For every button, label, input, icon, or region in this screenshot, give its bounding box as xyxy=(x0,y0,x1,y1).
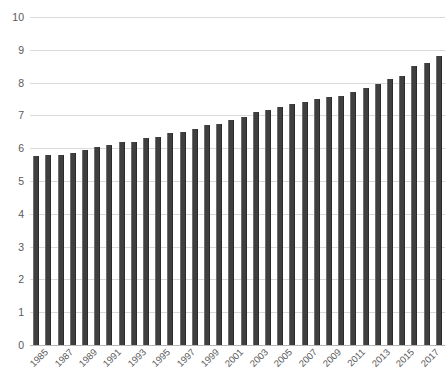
bar xyxy=(289,104,295,345)
bar xyxy=(119,142,125,345)
y-axis-tick-label: 0 xyxy=(18,340,24,351)
bar xyxy=(33,156,39,345)
x-axis-labels: 1985198719891991199319951997199920012003… xyxy=(30,347,445,387)
x-axis-tick-label: 2011 xyxy=(346,347,367,368)
bar xyxy=(253,112,259,345)
x-axis-tick-label: 2005 xyxy=(272,347,294,369)
bar xyxy=(228,120,234,345)
bar-series xyxy=(30,17,445,345)
bar xyxy=(375,84,381,345)
x-axis-tick-label: 1985 xyxy=(28,347,50,369)
x-axis-tick-label: 1995 xyxy=(150,347,172,369)
bar xyxy=(387,79,393,345)
bar xyxy=(45,155,51,345)
y-axis-tick-label: 10 xyxy=(12,12,24,23)
bar xyxy=(94,147,100,345)
y-axis-tick-label: 9 xyxy=(18,45,24,56)
x-axis-tick-label: 2001 xyxy=(223,347,245,369)
bar xyxy=(180,132,186,345)
y-axis-tick-label: 8 xyxy=(18,77,24,88)
bar xyxy=(436,56,442,345)
y-axis-tick-label: 6 xyxy=(18,143,24,154)
bar xyxy=(241,117,247,345)
y-axis-tick-label: 7 xyxy=(18,110,24,121)
y-axis-tick-label: 1 xyxy=(18,307,24,318)
x-axis-tick-label: 2013 xyxy=(370,347,392,369)
bar xyxy=(192,129,198,345)
bar xyxy=(58,155,64,345)
bar xyxy=(277,107,283,345)
x-axis-tick-label: 1989 xyxy=(77,347,99,369)
bar xyxy=(143,138,149,345)
x-axis-tick-label: 1987 xyxy=(53,347,75,369)
y-axis-tick-label: 4 xyxy=(18,209,24,220)
bar xyxy=(314,99,320,345)
x-axis-tick-label: 1999 xyxy=(199,347,221,369)
bar xyxy=(70,153,76,345)
x-axis-tick-label: 1991 xyxy=(101,347,123,369)
bar xyxy=(204,125,210,345)
bar xyxy=(167,133,173,345)
bar xyxy=(424,63,430,345)
bar xyxy=(82,150,88,345)
bar xyxy=(363,88,369,345)
x-axis-tick-label: 2015 xyxy=(394,347,416,369)
bar xyxy=(326,97,332,345)
x-axis-tick-label: 2017 xyxy=(419,347,441,369)
x-axis-tick-label: 2009 xyxy=(321,347,343,369)
x-axis-tick-label: 2007 xyxy=(297,347,319,369)
y-axis-tick-label: 2 xyxy=(18,274,24,285)
bar xyxy=(216,124,222,345)
bar-chart: 012345678910 198519871989199119931995199… xyxy=(0,0,448,387)
bar xyxy=(338,96,344,345)
bar xyxy=(155,137,161,345)
bar xyxy=(350,92,356,345)
bar xyxy=(106,145,112,345)
bar xyxy=(399,76,405,345)
x-axis-tick-label: 1997 xyxy=(175,347,197,369)
bar xyxy=(265,110,271,345)
x-axis-tick-label: 2003 xyxy=(248,347,270,369)
bar xyxy=(302,102,308,345)
y-axis-labels: 012345678910 xyxy=(0,17,24,345)
bar xyxy=(131,142,137,345)
y-axis-tick-label: 3 xyxy=(18,241,24,252)
bar xyxy=(411,66,417,345)
y-axis-tick-label: 5 xyxy=(18,176,24,187)
x-axis-tick-label: 1993 xyxy=(126,347,148,369)
